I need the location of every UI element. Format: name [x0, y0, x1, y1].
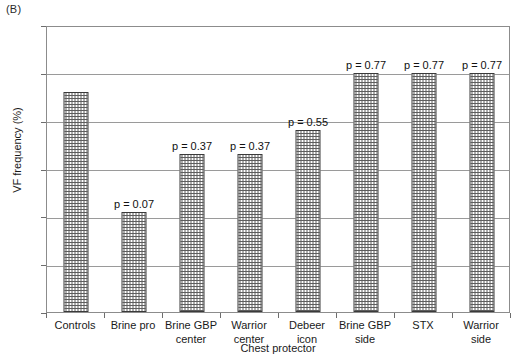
bar-slot: p = 0.55	[279, 27, 337, 312]
bar-pvalue-label: p = 0.37	[172, 140, 212, 152]
x-category-label: Brine pro	[104, 318, 162, 332]
y-tick-mark	[41, 26, 46, 27]
y-tick-mark	[41, 217, 46, 218]
plot-area: p = 0.07p = 0.37p = 0.37p = 0.55p = 0.77…	[46, 26, 510, 313]
bar-pvalue-label: p = 0.37	[230, 140, 270, 152]
x-category-label: Controls	[46, 318, 104, 332]
x-category-label: Debeer icon	[278, 318, 336, 346]
x-category-label: STX	[394, 318, 452, 332]
x-category-label-line: Controls	[46, 318, 104, 332]
bar[interactable]	[238, 154, 263, 312]
bar-slot: p = 0.37	[163, 27, 221, 312]
bar-pvalue-label: p = 0.77	[462, 59, 502, 71]
bar[interactable]	[412, 73, 437, 312]
x-category-label: Warrior side	[452, 318, 510, 346]
x-category-label: Warriorcenter	[220, 318, 278, 346]
x-category-label-line: side	[336, 332, 394, 346]
x-category-label-line: Brine pro	[104, 318, 162, 332]
x-tick-mark	[510, 313, 511, 318]
x-category-label: Brine GBPside	[336, 318, 394, 346]
y-tick-mark	[41, 170, 46, 171]
bar[interactable]	[470, 73, 495, 312]
bar-pvalue-label: p = 0.55	[288, 116, 328, 128]
y-tick-mark	[41, 265, 46, 266]
bar-pvalue-label: p = 0.07	[114, 198, 154, 210]
bar[interactable]	[122, 212, 147, 312]
bar[interactable]	[64, 92, 89, 312]
bar-slot: p = 0.07	[105, 27, 163, 312]
x-category-label-line: Brine GBP	[162, 318, 220, 332]
y-tick-mark	[41, 74, 46, 75]
y-tick-mark	[41, 122, 46, 123]
bar-slot: p = 0.37	[221, 27, 279, 312]
bar-pvalue-label: p = 0.77	[346, 59, 386, 71]
x-category-label-line: STX	[394, 318, 452, 332]
bar-slot: p = 0.77	[337, 27, 395, 312]
bar-slot: p = 0.77	[395, 27, 453, 312]
x-category-label-line: Warrior	[220, 318, 278, 332]
bar[interactable]	[296, 130, 321, 312]
panel-label: (B)	[6, 3, 21, 15]
x-category-label-line: Warrior side	[452, 318, 510, 346]
y-axis-title: VF frequency (%)	[11, 80, 23, 220]
x-category-label-line: center	[162, 332, 220, 346]
x-category-label-line: Brine GBP	[336, 318, 394, 332]
bar-slot	[47, 27, 105, 312]
x-category-label-line: center	[220, 332, 278, 346]
plot-inner: p = 0.07p = 0.37p = 0.37p = 0.55p = 0.77…	[47, 27, 509, 312]
x-category-label: Brine GBPcenter	[162, 318, 220, 346]
bar[interactable]	[180, 154, 205, 312]
bar-slot: p = 0.77	[453, 27, 511, 312]
x-category-label-line: Debeer icon	[278, 318, 336, 346]
bar[interactable]	[354, 73, 379, 312]
bar-pvalue-label: p = 0.77	[404, 59, 444, 71]
